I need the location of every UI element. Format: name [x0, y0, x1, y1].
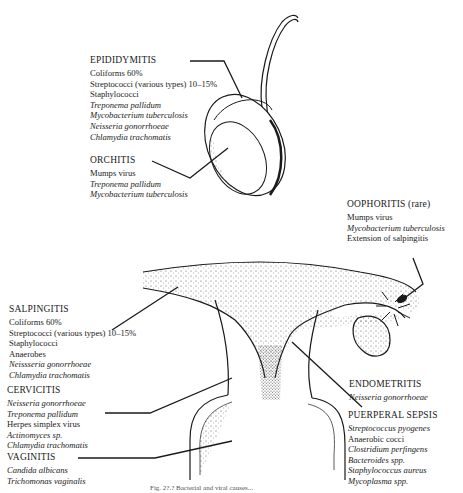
- organism: Treponema pallidum: [7, 409, 88, 420]
- title-puerperal-sepsis: PUERPERAL SEPSIS: [348, 409, 438, 421]
- organism: Anaerobic cocci: [348, 434, 438, 445]
- organism: Treponema pallidum: [90, 100, 217, 111]
- organism: Anaerobes: [9, 349, 136, 360]
- title-orchitis: ORCHITIS: [90, 154, 188, 166]
- organism: Streptococci (various types) 10–15%: [90, 79, 217, 90]
- figure-caption: Fig. 2?.? Bacterial and viral causes...: [150, 484, 253, 492]
- organism: Streptococci (various types) 10–15%: [9, 328, 136, 339]
- label-cervicitis: CERVICITIS Neisseria gonorrhoeae Trepone…: [7, 384, 88, 451]
- label-vaginitis: VAGINITIS Candida albicans Trichomonas v…: [7, 451, 86, 486]
- title-endometritis: ENDOMETRITIS: [349, 378, 428, 390]
- title-cervicitis: CERVICITIS: [7, 384, 88, 396]
- organism: Neisseria gonorrhoeae: [7, 398, 88, 409]
- organism: Chlamydia trachomatis: [9, 370, 136, 381]
- organism: Staphylococci: [9, 338, 136, 349]
- organism: Clostridium perfingens: [348, 444, 438, 455]
- organism: Coliforms 60%: [90, 68, 217, 79]
- organism: Mycoplasma spp.: [348, 476, 438, 487]
- organism: Actinomyces sp.: [7, 430, 88, 441]
- label-endometritis: ENDOMETRITIS Neisseria gonorrhoeae: [349, 378, 428, 403]
- organism: Staphylococci: [90, 89, 217, 100]
- label-oophoritis: OOPHORITIS (rare) Mumps virus Mycobacter…: [347, 198, 445, 244]
- title-oophoritis: OOPHORITIS (rare): [347, 198, 445, 210]
- organism: Neissseria gonorrhoeae: [9, 359, 136, 370]
- organism: Neisseria gonorrhoeae: [90, 121, 217, 132]
- organism: Mycobacterium tuberculosis: [347, 223, 445, 234]
- label-epididymitis: EPIDIDYMITIS Coliforms 60% Streptococci …: [90, 54, 217, 142]
- organism: Mumps virus: [90, 168, 188, 179]
- organism: Bacteroides spp.: [348, 455, 438, 466]
- organism: Mycobacterium tuberculosis: [90, 189, 188, 200]
- title-salpingitis: SALPINGITIS: [9, 303, 136, 315]
- title-vaginitis: VAGINITIS: [7, 451, 86, 463]
- organism: Staphylococcus aureus: [348, 465, 438, 476]
- organism: Chlamydia trachomatis: [90, 132, 217, 143]
- organism: Streptococcus pyogenes: [348, 423, 438, 434]
- organism: Herpes simplex virus: [7, 419, 88, 430]
- organism: Neisseria gonorrhoeae: [349, 392, 428, 403]
- organism: Mycobacterium tuberculosis: [90, 110, 217, 121]
- organism: Coliforms 60%: [9, 317, 136, 328]
- organism: Candida albicans: [7, 465, 86, 476]
- title-epididymitis: EPIDIDYMITIS: [90, 54, 217, 66]
- organism: Treponema pallidum: [90, 179, 188, 190]
- label-salpingitis: SALPINGITIS Coliforms 60% Streptococci (…: [9, 303, 136, 381]
- label-orchitis: ORCHITIS Mumps virus Treponema pallidum …: [90, 154, 188, 200]
- organism: Extension of salpingitis: [347, 233, 445, 244]
- label-puerperal-sepsis: PUERPERAL SEPSIS Streptococcus pyogenes …: [348, 409, 438, 487]
- organism: Trichomonas vaginalis: [7, 476, 86, 487]
- organism: Mumps virus: [347, 212, 445, 223]
- leader-cervicitis: [105, 378, 232, 413]
- organism: Chlamydia trachomatis: [7, 440, 88, 451]
